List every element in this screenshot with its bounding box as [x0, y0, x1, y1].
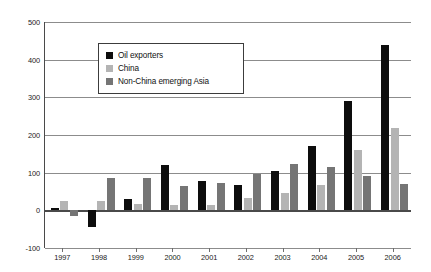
x-tick-label-1997: 1997	[42, 253, 82, 262]
y-tick-label-400: 400	[4, 56, 40, 65]
chart-legend: Oil exportersChinaNon-China emerging Asi…	[98, 43, 244, 94]
x-tick-1998	[99, 248, 100, 252]
x-tick-2002	[246, 248, 247, 252]
bar-2000-series-0	[161, 165, 169, 210]
bar-2003-series-0	[271, 171, 279, 211]
bar-2002-series-1	[244, 198, 252, 210]
x-tick-2001	[209, 248, 210, 252]
x-tick-2003	[283, 248, 284, 252]
bar-chart-figure: -1000100200300400500 1997199819992000200…	[0, 0, 431, 272]
bar-2003-series-1	[281, 193, 289, 210]
x-tick-label-2004: 2004	[299, 253, 339, 262]
bar-2006-series-2	[400, 184, 408, 210]
x-tick-label-2005: 2005	[336, 253, 376, 262]
x-tick-2004	[319, 248, 320, 252]
x-axis-label-group: 1997199819992000200120022003200420052006	[44, 253, 411, 267]
bar-2004-series-2	[327, 167, 335, 210]
bar-1997-series-1	[60, 201, 68, 210]
x-tick-label-2006: 2006	[373, 253, 413, 262]
bar-2001-series-1	[207, 205, 215, 210]
bar-group-2004	[302, 22, 339, 248]
legend-swatch-icon-1	[106, 65, 113, 72]
bar-2001-series-0	[198, 181, 206, 210]
legend-label-1: China	[118, 64, 139, 73]
y-tick-label--100: -100	[4, 244, 40, 253]
legend-item-0: Oil exporters	[106, 49, 237, 62]
bar-2005-series-1	[354, 150, 362, 210]
bar-2005-series-2	[363, 176, 371, 210]
bar-1999-series-2	[143, 178, 151, 211]
bar-1997-series-2	[70, 210, 78, 216]
bar-1998-series-1	[97, 201, 105, 210]
legend-swatch-icon-0	[106, 52, 113, 59]
bar-group-2003	[265, 22, 302, 248]
bar-2006-series-0	[381, 45, 389, 211]
bar-2002-series-0	[234, 185, 242, 210]
legend-label-0: Oil exporters	[118, 51, 163, 60]
bar-group-2005	[339, 22, 376, 248]
bar-2005-series-0	[344, 101, 352, 211]
y-tick-label-0: 0	[4, 206, 40, 215]
bar-2004-series-0	[308, 146, 316, 210]
bar-2002-series-2	[253, 174, 261, 210]
bar-2006-series-1	[391, 128, 399, 210]
x-tick-2006	[393, 248, 394, 252]
bar-2001-series-2	[217, 183, 225, 210]
x-tick-label-1998: 1998	[79, 253, 119, 262]
bar-group-1997	[45, 22, 82, 248]
x-tick-2000	[172, 248, 173, 252]
bar-2004-series-1	[317, 185, 325, 211]
bar-group-2006	[375, 22, 412, 248]
legend-label-2: Non-China emerging Asia	[118, 77, 209, 86]
x-tick-label-2001: 2001	[189, 253, 229, 262]
x-tick-1999	[136, 248, 137, 252]
y-tick-label-100: 100	[4, 169, 40, 178]
x-tick-label-2003: 2003	[263, 253, 303, 262]
x-tick-2005	[356, 248, 357, 252]
x-tick-label-2000: 2000	[152, 253, 192, 262]
y-tick-label-500: 500	[4, 18, 40, 27]
y-tick-label-300: 300	[4, 93, 40, 102]
bar-1999-series-1	[134, 204, 142, 211]
x-tick-label-2002: 2002	[226, 253, 266, 262]
legend-item-2: Non-China emerging Asia	[106, 75, 237, 88]
legend-swatch-icon-2	[106, 78, 113, 85]
bar-2000-series-2	[180, 186, 188, 210]
bar-1998-series-2	[107, 178, 115, 210]
x-tick-1997	[62, 248, 63, 252]
bar-1999-series-0	[124, 199, 132, 210]
x-tick-label-1999: 1999	[116, 253, 156, 262]
y-tick-label-200: 200	[4, 131, 40, 140]
bar-2000-series-1	[170, 205, 178, 211]
legend-item-1: China	[106, 62, 237, 75]
bar-1998-series-0	[88, 210, 96, 227]
bar-2003-series-2	[290, 164, 298, 210]
bar-1997-series-0	[51, 208, 59, 210]
